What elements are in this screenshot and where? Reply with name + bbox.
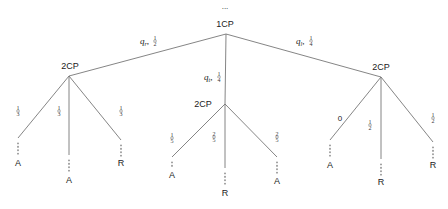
edge-label-right: ql, [296,36,304,47]
fraction-denominator: 4 [218,77,221,83]
edge-root-to-middle [225,34,226,104]
fraction-numerator: 1 [154,35,157,41]
edge-middle-child-0 [172,104,225,157]
fraction-denominator: 3 [58,111,61,117]
fraction-numerator: 1 [17,105,20,111]
leaf-outcome-R: R [222,188,229,198]
fraction-denominator: 5 [213,137,216,143]
edge-label-middle: qt, [204,72,212,83]
node-label-middle: 2CP [194,99,212,109]
child-prob: 13 [16,105,20,117]
node-label-left: 2CP [61,61,79,71]
node-label-right: 2CP [372,62,390,72]
fraction-numerator: 1 [120,105,123,111]
edge-label-left: qr, [140,36,149,47]
edge-prob-left: 12 [153,35,157,47]
root-ellipsis: ... [222,2,229,11]
root-node-label: 1CP [216,19,234,29]
fraction-denominator: 2 [154,41,157,47]
edge-right-child-0 [330,77,381,140]
child-prob: 12 [368,119,372,131]
fraction-numerator: 1 [369,119,372,125]
fraction-denominator: 3 [120,111,123,117]
tree-svg: ...1CPqr,122CPA13A13R13qt,142CPA15R25A25… [0,0,448,209]
fraction-denominator: 2 [369,125,372,131]
leaf-outcome-R: R [430,160,437,170]
edge-left-child-2 [69,76,121,140]
edge-prob-middle: 14 [217,71,221,83]
fraction-denominator: 2 [432,118,435,124]
child-prob: 25 [275,131,279,143]
leaf-outcome-A: A [15,158,21,168]
fraction-numerator: 1 [432,112,435,118]
tree-diagram: ...1CPqr,122CPA13A13R13qt,142CPA15R25A25… [0,0,448,209]
leaf-outcome-A: A [327,160,333,170]
fraction-numerator: 1 [171,132,174,138]
leaf-outcome-A: A [274,176,280,186]
fraction-denominator: 4 [310,41,313,47]
child-prob: 12 [431,112,435,124]
child-prob: 13 [57,105,61,117]
child-prob: 15 [170,132,174,144]
fraction-numerator: 1 [218,71,221,77]
leaf-outcome-A: A [66,175,72,185]
child-prob: 13 [119,105,123,117]
leaf-outcome-A: A [169,170,175,180]
child-prob: 0 [338,114,343,123]
fraction-numerator: 2 [213,131,216,137]
child-prob: 25 [212,131,216,143]
fraction-numerator: 1 [58,105,61,111]
edge-middle-child-2 [225,104,277,157]
leaf-outcome-R: R [118,158,125,168]
edge-left-child-0 [18,76,69,138]
edge-prob-right: 14 [309,35,313,47]
edge-right-child-2 [381,77,433,142]
fraction-numerator: 1 [310,35,313,41]
fraction-denominator: 5 [276,137,279,143]
fraction-denominator: 3 [17,111,20,117]
fraction-numerator: 2 [276,131,279,137]
fraction-denominator: 5 [171,138,174,144]
leaf-outcome-R: R [378,177,385,187]
